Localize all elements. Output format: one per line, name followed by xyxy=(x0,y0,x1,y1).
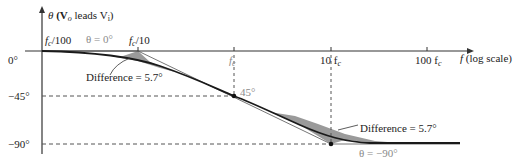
theta-zero-label: θ = 0° xyxy=(86,33,113,45)
midpoint-45-label: 45° xyxy=(240,86,255,98)
y-tick-minus45: −45° xyxy=(8,90,30,102)
x-tick-fc-10: fc/10 xyxy=(129,34,150,48)
y-axis-label: θ (Vo leads Vi) xyxy=(48,9,114,23)
point-10fc xyxy=(329,142,334,147)
y-tick-0: 0° xyxy=(8,54,18,66)
x-tick-100fc: 100 fc xyxy=(415,54,442,68)
theta-minus90-label: θ = −90° xyxy=(359,147,398,159)
difference-region-left xyxy=(42,51,175,72)
leader-right xyxy=(338,125,358,130)
y-tick-minus90: −90° xyxy=(8,138,30,150)
x-axis-label: f (log scale) xyxy=(460,52,512,65)
difference-left-label: Difference = 5.7° xyxy=(86,71,163,83)
point-fc xyxy=(232,94,237,99)
phase-plot: θ (Vo leads Vi) f (log scale) 0° −45° −9… xyxy=(0,0,525,167)
x-tick-10fc: 10 fc xyxy=(320,54,341,68)
x-tick-fc-100: fc/100 xyxy=(45,34,72,48)
difference-right-label: Difference = 5.7° xyxy=(360,122,437,134)
y-axis-arrow xyxy=(39,6,45,13)
x-tick-fc: fc xyxy=(229,54,236,68)
